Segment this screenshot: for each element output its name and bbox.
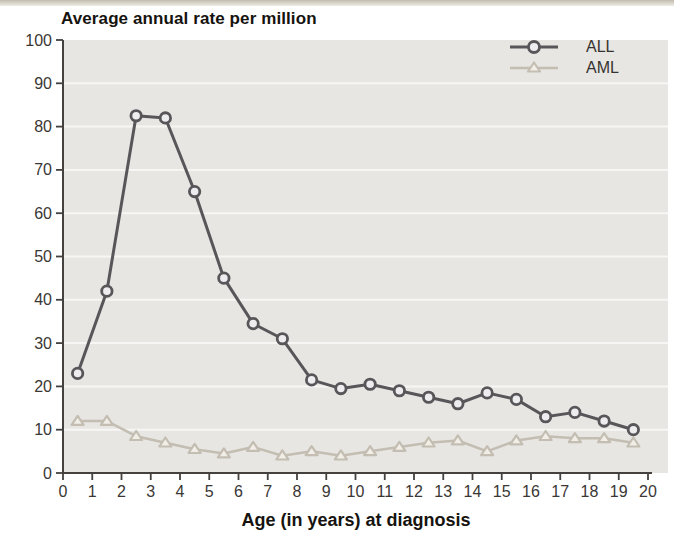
legend-label-aml: AML <box>586 59 619 77</box>
all-data-point <box>511 394 521 404</box>
all-data-point <box>394 386 404 396</box>
x-tick-label-2: 2 <box>117 483 126 500</box>
line-chart: 0102030405060708090100012345678910111213… <box>0 0 674 542</box>
legend-item-all: ALL <box>508 36 619 57</box>
all-data-point <box>336 383 346 393</box>
all-series-legend-marker <box>508 38 560 56</box>
y-tick-label-30: 30 <box>34 335 52 352</box>
chart-legend: ALL AML <box>508 36 619 78</box>
x-tick-label-9: 9 <box>322 483 331 500</box>
x-tick-label-7: 7 <box>263 483 272 500</box>
x-tick-label-6: 6 <box>234 483 243 500</box>
all-data-point <box>423 392 433 402</box>
aml-series-legend-marker <box>508 59 560 77</box>
legend-item-aml: AML <box>508 57 619 78</box>
y-tick-label-40: 40 <box>34 291 52 308</box>
y-tick-label-100: 100 <box>25 32 52 49</box>
x-tick-label-0: 0 <box>59 483 68 500</box>
x-tick-label-5: 5 <box>205 483 214 500</box>
all-data-point <box>72 368 82 378</box>
all-data-point <box>306 375 316 385</box>
x-tick-label-19: 19 <box>610 483 628 500</box>
x-tick-label-13: 13 <box>434 483 452 500</box>
x-tick-label-18: 18 <box>581 483 599 500</box>
y-tick-label-70: 70 <box>34 161 52 178</box>
y-tick-label-90: 90 <box>34 75 52 92</box>
all-data-point <box>570 407 580 417</box>
x-tick-label-16: 16 <box>522 483 540 500</box>
x-axis-title: Age (in years) at diagnosis <box>63 510 649 531</box>
all-data-point <box>219 273 229 283</box>
all-data-point <box>540 412 550 422</box>
y-tick-label-50: 50 <box>34 248 52 265</box>
all-data-point <box>628 425 638 435</box>
x-tick-label-8: 8 <box>293 483 302 500</box>
all-data-point <box>453 399 463 409</box>
all-data-point <box>189 186 199 196</box>
y-tick-label-0: 0 <box>43 465 52 482</box>
y-tick-label-80: 80 <box>34 118 52 135</box>
x-tick-label-11: 11 <box>376 483 393 500</box>
x-tick-label-3: 3 <box>146 483 155 500</box>
x-tick-label-4: 4 <box>176 483 185 500</box>
x-tick-label-14: 14 <box>464 483 482 500</box>
all-data-point <box>482 388 492 398</box>
x-tick-label-17: 17 <box>551 483 569 500</box>
y-tick-label-60: 60 <box>34 205 52 222</box>
y-tick-label-20: 20 <box>34 378 52 395</box>
x-tick-label-10: 10 <box>347 483 365 500</box>
x-tick-label-12: 12 <box>405 483 423 500</box>
legend-label-all: ALL <box>586 38 614 56</box>
all-data-point <box>131 111 141 121</box>
chart-page: Average annual rate per million 01020304… <box>0 0 674 542</box>
all-data-point <box>277 334 287 344</box>
all-data-point <box>365 379 375 389</box>
all-data-point <box>102 286 112 296</box>
all-data-point <box>248 318 258 328</box>
x-tick-label-15: 15 <box>493 483 511 500</box>
y-tick-label-10: 10 <box>34 421 52 438</box>
x-tick-label-1: 1 <box>88 483 97 500</box>
all-data-point <box>599 416 609 426</box>
x-tick-label-20: 20 <box>639 483 657 500</box>
all-data-point <box>160 113 170 123</box>
